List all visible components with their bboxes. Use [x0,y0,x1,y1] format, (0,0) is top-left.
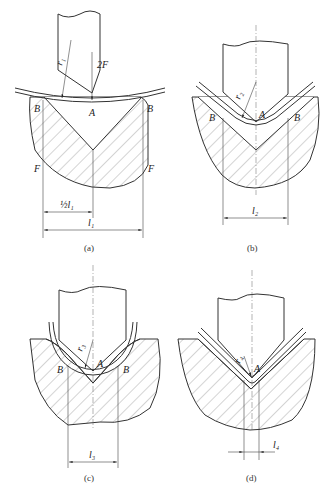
force-left-label: F [33,163,41,174]
panel-d: r₄ A l₄ (d) [178,270,315,483]
span-label-a: l₁ [88,217,94,228]
point-a-label-b: A [258,109,266,120]
point-b-left-label-c: B [57,364,63,375]
point-b-left-label-b: B [209,112,215,123]
point-b-left-label: B [34,103,40,114]
point-a-label: A [88,107,96,118]
force-label-top: 2F [97,59,109,70]
punch-d [218,294,284,378]
point-b-right-label-b: B [294,112,300,123]
force-right-label: F [147,163,155,174]
span-label-c: l₃ [89,449,96,460]
caption-a: (a) [84,243,94,253]
panel-b: r₂ A B B l₂ (b) [192,25,319,253]
panel-a: r₁ 2F A B B F F ½l₁ l₁ (a) [15,11,165,253]
point-b-right-label: B [147,103,153,114]
point-a-label-d: A [253,363,261,374]
panel-c: r₃ A B B l₃ (c) [30,265,160,483]
half-span-label-a: ½l₁ [60,199,74,210]
point-b-right-label-c: B [123,364,129,375]
span-label-d: l₄ [273,439,280,450]
caption-d: (d) [246,473,257,483]
caption-b: (b) [247,243,258,253]
v-bending-stages-diagram: r₁ 2F A B B F F ½l₁ l₁ (a) r₂ A B B [0,0,330,499]
caption-c: (c) [84,473,94,483]
point-a-label-c: A [96,358,104,369]
span-label-b: l₂ [252,205,259,216]
